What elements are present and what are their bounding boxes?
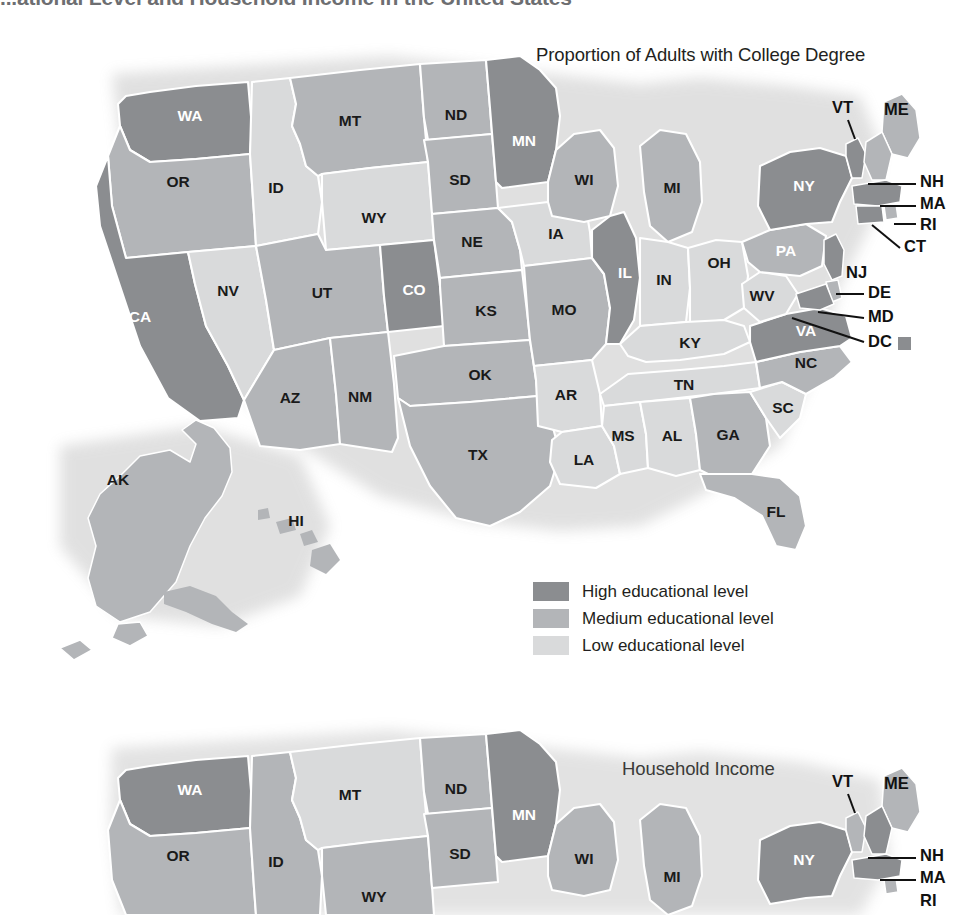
label-CO: CO — [402, 281, 425, 298]
callout-NH: NH — [920, 172, 944, 190]
label-WI-income: WI — [575, 850, 594, 867]
label-MN: MN — [512, 132, 536, 149]
label-MS: MS — [611, 427, 634, 444]
label-OK: OK — [468, 366, 492, 383]
callout-NJ: NJ — [846, 263, 867, 281]
callout-ME: ME — [884, 100, 909, 118]
label-NE: NE — [461, 233, 483, 250]
label-AK: AK — [107, 471, 130, 488]
label-CA: CA — [129, 308, 151, 325]
state-ND[interactable] — [420, 60, 492, 140]
label-TN: TN — [674, 376, 695, 393]
state-CT[interactable] — [856, 206, 884, 224]
legend-item-low: Low educational level — [533, 633, 774, 658]
label-FL: FL — [767, 503, 786, 520]
label-WI: WI — [575, 171, 594, 188]
state-FL[interactable] — [700, 474, 806, 550]
label-NV: NV — [217, 282, 239, 299]
label-SD-income: SD — [449, 845, 471, 862]
state-ND-income[interactable] — [420, 734, 492, 814]
legend-swatch-high — [533, 582, 569, 601]
legend-swatch-medium — [533, 609, 569, 628]
label-KS: KS — [475, 302, 497, 319]
label-MT: MT — [339, 112, 362, 129]
label-WY: WY — [362, 209, 388, 226]
label-SC: SC — [772, 399, 794, 416]
label-IA: IA — [548, 225, 564, 242]
label-SD: SD — [449, 171, 471, 188]
label-MI-income: MI — [663, 868, 680, 885]
label-MN-income: MN — [512, 806, 536, 823]
callout-MA: MA — [920, 194, 946, 212]
callout-VT: VT — [832, 98, 853, 116]
label-UT: UT — [312, 284, 333, 301]
legend: High educational level Medium educationa… — [533, 579, 774, 660]
callout-RI-income: RI — [920, 891, 937, 909]
state-MI-income[interactable] — [640, 804, 702, 915]
legend-item-high: High educational level — [533, 579, 774, 604]
label-TX: TX — [468, 446, 488, 463]
label-WV: WV — [750, 287, 776, 304]
legend-label-medium: Medium educational level — [582, 609, 774, 629]
income-choropleth-map: WA OR ID MT WY ND SD MN WI MI NY VT ME N… — [0, 700, 956, 915]
callout-VT-income: VT — [832, 772, 853, 790]
state-WY[interactable] — [322, 162, 434, 250]
education-map-panel: Proportion of Adults with College Degree — [0, 26, 956, 686]
legend-swatch-low — [533, 636, 569, 655]
callout-CT: CT — [904, 237, 926, 255]
label-OR-income: OR — [166, 847, 189, 864]
label-AZ: AZ — [280, 389, 301, 406]
label-OH: OH — [707, 254, 730, 271]
label-PA: PA — [776, 242, 796, 259]
label-WA: WA — [178, 107, 203, 124]
label-MO: MO — [552, 301, 577, 318]
label-GA: GA — [716, 426, 739, 443]
label-KY: KY — [679, 334, 701, 351]
label-NM: NM — [348, 388, 372, 405]
label-IL: IL — [618, 264, 632, 281]
legend-label-high: High educational level — [582, 582, 748, 602]
label-NC: NC — [795, 354, 817, 371]
label-WA-income: WA — [178, 781, 203, 798]
label-AL: AL — [662, 427, 683, 444]
callout-MA-income: MA — [920, 868, 946, 886]
education-choropleth-map: WA OR CA NV ID MT WY UT AZ NM CO ND SD N… — [0, 26, 956, 686]
label-ID: ID — [268, 179, 284, 196]
callout-DE: DE — [868, 283, 891, 301]
state-DC[interactable] — [898, 337, 911, 350]
label-ND: ND — [445, 106, 467, 123]
callout-DC: DC — [868, 332, 892, 350]
label-LA: LA — [574, 451, 595, 468]
label-MT-income: MT — [339, 786, 362, 803]
callout-ME-income: ME — [884, 774, 909, 792]
label-AR: AR — [555, 386, 577, 403]
label-NY-income: NY — [793, 851, 815, 868]
label-ID-income: ID — [268, 853, 284, 870]
label-OR: OR — [166, 173, 189, 190]
callout-RI: RI — [920, 215, 937, 233]
callout-MD: MD — [868, 307, 894, 325]
label-IN: IN — [656, 271, 672, 288]
label-MI: MI — [663, 179, 680, 196]
legend-item-medium: Medium educational level — [533, 606, 774, 631]
label-WY-income: WY — [362, 888, 388, 905]
callout-NH-income: NH — [920, 846, 944, 864]
label-HI: HI — [288, 512, 304, 529]
legend-label-low: Low educational level — [582, 636, 745, 656]
label-NY: NY — [793, 177, 815, 194]
state-OH[interactable] — [688, 240, 748, 324]
income-map-panel: Household Income WA OR ID MT WY ND — [0, 700, 956, 915]
page-title: ...ational Level and Household Income in… — [0, 0, 956, 16]
label-ND-income: ND — [445, 780, 467, 797]
